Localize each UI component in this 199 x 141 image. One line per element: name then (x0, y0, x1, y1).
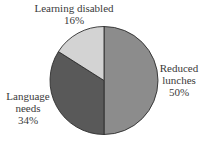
label-language-needs: Language needs 34% (4, 90, 52, 126)
label-learning-disabled-name: Learning disabled (26, 2, 122, 14)
label-reduced-lunches-value: 50% (158, 86, 199, 98)
label-learning-disabled: Learning disabled 16% (26, 2, 122, 26)
label-reduced-lunches: Reduced lunches 50% (158, 62, 199, 98)
label-learning-disabled-value: 16% (26, 14, 122, 26)
label-language-needs-name-2: needs (4, 102, 52, 114)
pie-slice-reduced-lunches (104, 27, 158, 135)
label-reduced-lunches-name-1: Reduced (158, 62, 199, 74)
pie-slices (50, 27, 158, 135)
label-language-needs-value: 34% (4, 114, 52, 126)
label-language-needs-name-1: Language (4, 90, 52, 102)
label-reduced-lunches-name-2: lunches (158, 74, 199, 86)
